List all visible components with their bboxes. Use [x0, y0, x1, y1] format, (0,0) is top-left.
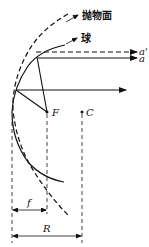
focal-length-label: f	[26, 197, 33, 208]
paraboloid-curve	[13, 14, 68, 215]
ray-a-label: a	[139, 53, 145, 64]
radius-label: R	[42, 223, 51, 234]
mirror-diagram: 抛物面 球 a' a F C f R	[0, 0, 149, 247]
ray-to-focus-mid	[16, 90, 47, 112]
ray-to-focus-top	[37, 57, 47, 112]
center-point	[81, 111, 84, 114]
center-label: C	[86, 107, 94, 118]
paraboloid-label: 抛物面	[82, 9, 112, 21]
focus-label: F	[51, 107, 60, 118]
sphere-leader	[66, 38, 77, 44]
paraboloid-leader	[66, 15, 78, 22]
sphere-label: 球	[81, 32, 92, 44]
focus-point	[46, 111, 49, 114]
